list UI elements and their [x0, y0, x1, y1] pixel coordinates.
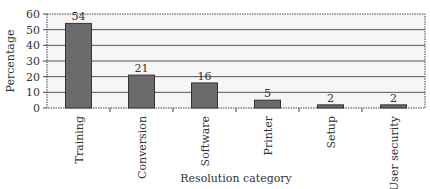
y-tick-label: 40 — [26, 39, 40, 52]
y-axis-ticks: 0102030405060 — [26, 8, 47, 115]
data-label: 5 — [264, 87, 271, 100]
bar-chart: 0102030405060 542116522 TrainingConversi… — [0, 0, 430, 189]
data-label: 16 — [198, 70, 212, 83]
y-tick-label: 30 — [26, 55, 40, 68]
x-tick-label: Printer — [262, 115, 275, 155]
data-label: 54 — [72, 10, 86, 23]
bar-setup — [318, 105, 344, 108]
data-label: 2 — [327, 92, 334, 105]
bar-printer — [255, 100, 281, 108]
bar-training — [66, 23, 92, 108]
y-tick-label: 60 — [26, 8, 40, 21]
bar-user-security — [381, 105, 407, 108]
y-tick-label: 20 — [26, 71, 40, 84]
bar-software — [192, 83, 218, 108]
x-tick-label: Conversion — [136, 116, 149, 179]
y-axis-title: Percentage — [4, 30, 17, 93]
x-tick-label: User security — [388, 115, 401, 189]
x-tick-label: Software — [199, 116, 212, 166]
bar-conversion — [129, 75, 155, 108]
y-tick-label: 10 — [26, 86, 40, 99]
x-tick-label: Training — [73, 116, 86, 163]
x-axis-title: Resolution category — [180, 172, 292, 185]
y-tick-label: 0 — [33, 102, 40, 115]
y-tick-label: 50 — [26, 24, 40, 37]
data-label: 21 — [135, 62, 149, 75]
x-tick-label: Setup — [325, 116, 338, 149]
data-label: 2 — [390, 92, 397, 105]
